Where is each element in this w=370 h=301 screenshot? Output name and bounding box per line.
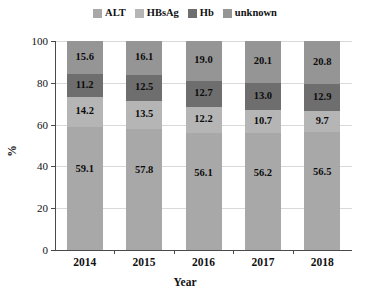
bar-segment-unknown-2014[interactable]: 15.6 (67, 41, 103, 74)
y-tick-label: 20 (37, 202, 48, 214)
y-tick (51, 250, 55, 251)
bar-value-label: 19.0 (194, 55, 212, 66)
bar-segment-hbsag-2017[interactable]: 10.7 (245, 110, 281, 132)
legend-swatch-hbsag (135, 9, 144, 18)
bar-segment-hbsag-2016[interactable]: 12.2 (186, 107, 222, 132)
bar-segment-alt-2017[interactable]: 56.2 (245, 133, 281, 250)
bar-value-label: 10.7 (254, 116, 272, 127)
legend-swatch-hb (188, 9, 197, 18)
y-tick-label: 80 (37, 77, 48, 89)
bar-segment-alt-2016[interactable]: 56.1 (186, 133, 222, 250)
bar-value-label: 56.2 (254, 168, 272, 179)
bar-value-label: 12.2 (194, 114, 212, 125)
bar-value-label: 20.1 (254, 56, 272, 67)
x-category-label-2018: 2018 (311, 256, 334, 268)
bar-segment-hb-2017[interactable]: 13.0 (245, 83, 281, 110)
x-axis-title: Year (0, 276, 370, 288)
bar-value-label: 20.8 (313, 57, 331, 68)
bar-segment-alt-2014[interactable]: 59.1 (67, 127, 103, 250)
legend-label: ALT (105, 8, 126, 19)
bar-value-label: 57.8 (135, 165, 153, 176)
x-category-label-2015: 2015 (133, 256, 156, 268)
bar-segment-unknown-2016[interactable]: 19.0 (186, 41, 222, 81)
legend-item-hb[interactable]: Hb (188, 8, 214, 19)
x-tick (114, 250, 115, 254)
bar-stack-2016[interactable]: 19.012.712.256.1 (186, 41, 222, 250)
bar-value-label: 12.7 (194, 88, 212, 99)
y-tick (51, 166, 55, 167)
y-tick (51, 83, 55, 84)
y-tick-label: 0 (43, 244, 49, 256)
bar-value-label: 56.1 (194, 168, 212, 179)
y-tick (51, 208, 55, 209)
bar-segment-hbsag-2018[interactable]: 9.7 (304, 111, 340, 131)
bar-segment-unknown-2015[interactable]: 16.1 (126, 41, 162, 75)
bar-value-label: 13.5 (135, 109, 153, 120)
y-axis-line (55, 41, 56, 250)
bar-segment-unknown-2017[interactable]: 20.1 (245, 41, 281, 83)
bar-value-label: 15.6 (76, 52, 94, 63)
chart-legend: ALTHBsAgHbunknown (0, 8, 370, 19)
bar-value-label: 12.9 (313, 92, 331, 103)
y-tick-label: 60 (37, 119, 48, 131)
bar-segment-hbsag-2015[interactable]: 13.5 (126, 101, 162, 129)
bar-stack-2018[interactable]: 20.812.99.756.5 (304, 41, 340, 250)
legend-swatch-alt (93, 9, 102, 18)
bar-value-label: 56.5 (313, 167, 331, 178)
legend-item-alt[interactable]: ALT (93, 8, 126, 19)
legend-swatch-unknown (223, 9, 232, 18)
x-category-label-2016: 2016 (192, 256, 215, 268)
bar-stack-2015[interactable]: 16.112.513.557.8 (126, 41, 162, 250)
legend-item-unknown[interactable]: unknown (223, 8, 277, 19)
legend-label: Hb (200, 8, 214, 19)
bar-segment-alt-2018[interactable]: 56.5 (304, 132, 340, 250)
legend-item-hbsag[interactable]: HBsAg (135, 8, 179, 19)
x-tick (233, 250, 234, 254)
bar-value-label: 9.7 (316, 116, 329, 127)
y-tick-label: 40 (37, 160, 48, 172)
bar-segment-hb-2016[interactable]: 12.7 (186, 81, 222, 108)
legend-label: unknown (235, 8, 277, 19)
y-tick-label: 100 (32, 35, 49, 47)
bar-segment-alt-2015[interactable]: 57.8 (126, 129, 162, 250)
bar-segment-unknown-2018[interactable]: 20.8 (304, 41, 340, 84)
plot-area: 020406080100 15.611.214.259.116.112.513.… (55, 41, 352, 250)
bar-value-label: 14.2 (76, 106, 94, 117)
bar-value-label: 13.0 (254, 91, 272, 102)
x-axis-line (55, 250, 352, 251)
y-tick (51, 125, 55, 126)
bar-stack-2017[interactable]: 20.113.010.756.2 (245, 41, 281, 250)
x-tick (174, 250, 175, 254)
bar-value-label: 11.2 (76, 80, 94, 91)
bar-segment-hb-2014[interactable]: 11.2 (67, 74, 103, 97)
stacked-bar-chart: ALTHBsAgHbunknown 020406080100 15.611.21… (0, 0, 370, 301)
bar-value-label: 16.1 (135, 52, 153, 63)
bar-segment-hb-2015[interactable]: 12.5 (126, 75, 162, 101)
bar-segment-hb-2018[interactable]: 12.9 (304, 84, 340, 111)
legend-label: HBsAg (147, 8, 179, 19)
x-category-label-2014: 2014 (73, 256, 96, 268)
bar-value-label: 59.1 (76, 164, 94, 175)
x-category-label-2017: 2017 (251, 256, 274, 268)
y-axis-title: % (6, 145, 18, 157)
bar-value-label: 12.5 (135, 82, 153, 93)
y-tick (51, 41, 55, 42)
bar-segment-hbsag-2014[interactable]: 14.2 (67, 97, 103, 127)
bar-stack-2014[interactable]: 15.611.214.259.1 (67, 41, 103, 250)
x-tick (293, 250, 294, 254)
